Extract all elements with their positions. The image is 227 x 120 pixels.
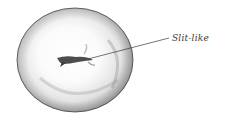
slit-like-label: Slit-like [172, 33, 209, 43]
cervix-illustration [0, 0, 227, 120]
